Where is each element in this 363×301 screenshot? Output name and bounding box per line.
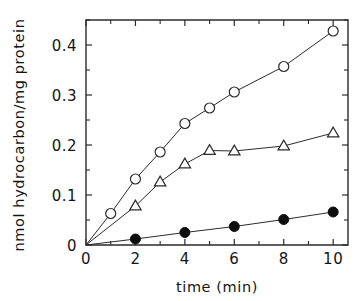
data-point-open-triangle [154, 176, 165, 186]
data-point-open-circle [205, 103, 215, 113]
chart-canvas: 0246810 00.10.20.30.4 time (min) nmol hy… [0, 0, 363, 301]
y-tick-label: 0 [67, 237, 77, 255]
data-point-open-triangle [229, 145, 240, 155]
x-axis-tick-labels: 0246810 [81, 250, 343, 268]
data-point-open-triangle [204, 145, 215, 155]
x-tick-label: 0 [81, 250, 91, 268]
data-point-open-circle [328, 26, 338, 36]
x-tick-label: 6 [229, 250, 239, 268]
data-point-filled-circle [229, 222, 239, 232]
x-tick-label: 4 [180, 250, 190, 268]
y-tick-label: 0.4 [52, 37, 77, 55]
y-axis-tick-labels: 00.10.20.30.4 [52, 37, 77, 255]
series-line-open-circle-series [86, 31, 333, 245]
figure-container: 0246810 00.10.20.30.4 time (min) nmol hy… [0, 0, 363, 301]
y-tick-label: 0.3 [52, 87, 77, 105]
series-lines-group [86, 31, 333, 245]
plot-frame [86, 20, 348, 245]
data-point-open-circle [279, 62, 289, 72]
data-point-open-circle [180, 119, 190, 129]
data-point-open-triangle [179, 158, 190, 168]
y-axis-ticks [86, 20, 348, 245]
x-tick-label: 2 [130, 250, 140, 268]
x-tick-label: 10 [323, 250, 343, 268]
x-axis-title: time (min) [176, 279, 258, 295]
axis-frame [86, 20, 348, 245]
y-axis-title: nmol hydrocarbon/mg protein [11, 19, 27, 252]
data-point-open-circle [130, 174, 140, 184]
data-point-open-triangle [327, 127, 338, 137]
data-point-open-circle [106, 209, 116, 219]
data-point-filled-circle [130, 234, 140, 244]
data-point-open-circle [155, 147, 165, 157]
x-tick-label: 8 [279, 250, 289, 268]
data-point-filled-circle [180, 228, 190, 238]
series-line-filled-circle-series [86, 212, 333, 245]
y-tick-label: 0.2 [52, 137, 77, 155]
series-markers-group [106, 26, 339, 244]
data-point-open-circle [229, 87, 239, 97]
y-tick-label: 0.1 [52, 187, 77, 205]
data-point-filled-circle [279, 215, 289, 225]
x-axis-ticks [86, 20, 333, 245]
data-point-filled-circle [328, 207, 338, 217]
